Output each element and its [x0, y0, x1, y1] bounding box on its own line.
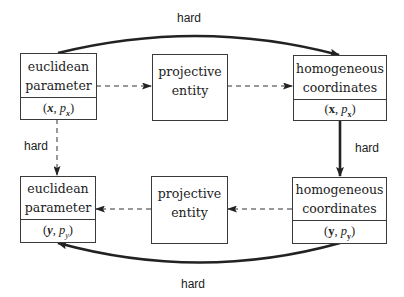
box-title: projective entity	[153, 55, 227, 105]
box-euclidean-parameter-y: euclidean parameter (y, py)	[20, 176, 96, 243]
diagram-canvas: euclidean parameter (x, px) projective e…	[0, 0, 404, 297]
label-right-hard: hard	[355, 142, 379, 154]
label-top-hard: hard	[177, 12, 201, 24]
box-homogeneous-coordinates-x: homogeneous coordinates (x, px)	[293, 55, 387, 121]
box-line-2: coordinates	[302, 199, 376, 218]
box-line-2: parameter	[25, 76, 92, 95]
box-projective-entity-top: projective entity	[152, 54, 228, 121]
box-line-1: projective	[158, 62, 221, 81]
label-left-hard: hard	[24, 140, 48, 152]
box-homogeneous-coordinates-y: homogeneous coordinates (y, py)	[292, 177, 387, 244]
label-bottom-hard: hard	[181, 278, 205, 290]
box-title: homogeneous coordinates	[294, 56, 386, 99]
box-math: (x, px)	[21, 97, 96, 120]
box-line-2: entity	[172, 81, 209, 100]
box-line-1: homogeneous	[296, 59, 384, 78]
box-euclidean-parameter-x: euclidean parameter (x, px)	[20, 53, 97, 120]
box-projective-entity-bottom: projective entity	[151, 176, 228, 244]
box-line-1: homogeneous	[296, 180, 384, 199]
box-title: euclidean parameter	[21, 177, 95, 219]
box-title: projective entity	[152, 177, 227, 227]
box-math: (x, px)	[294, 99, 386, 121]
box-line-1: euclidean	[28, 57, 89, 76]
box-line-2: parameter	[25, 198, 92, 217]
edge-bottom-hard-arrow	[58, 243, 340, 263]
box-title: euclidean parameter	[21, 54, 96, 97]
box-math: (y, py)	[21, 219, 95, 243]
box-line-1: projective	[158, 184, 221, 203]
edges-layer	[0, 0, 404, 297]
box-line-2: entity	[171, 203, 208, 222]
box-title: homogeneous coordinates	[293, 178, 386, 220]
box-math: (y, py)	[293, 220, 386, 244]
box-line-1: euclidean	[27, 179, 88, 198]
edge-top-hard-arrow	[58, 36, 339, 55]
box-line-2: coordinates	[303, 78, 377, 97]
